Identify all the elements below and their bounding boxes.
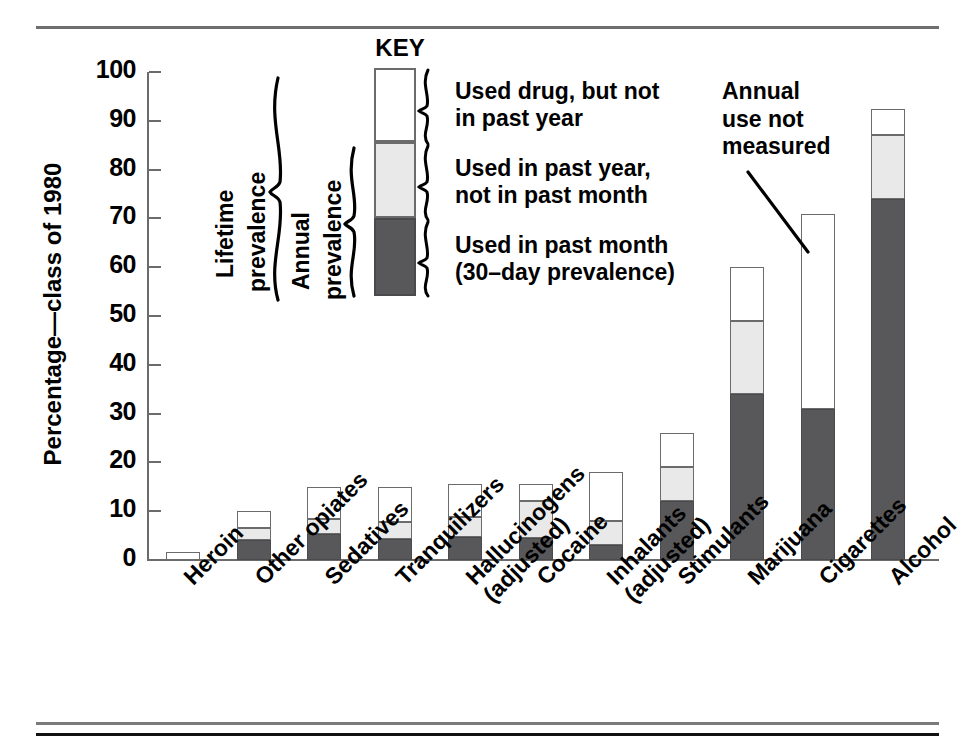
lifetime-prevalence-label: Lifetime	[212, 190, 239, 278]
bar-segment-past_year_not_month	[730, 321, 764, 394]
bar-segment-not_past_year	[237, 511, 271, 528]
y-axis-tick-label: 0	[78, 543, 136, 572]
key-label-past-month: Used in past month (30–day prevalence)	[455, 232, 675, 286]
y-axis-tick-label: 40	[78, 348, 136, 377]
key-label-line: Used in past month	[455, 232, 675, 259]
key-label-line: not in past month	[455, 182, 651, 209]
y-axis-label: Percentage—class of 1980	[39, 104, 67, 524]
y-axis-tick-label: 100	[78, 55, 136, 84]
y-axis-tick-label: 10	[78, 494, 136, 523]
bar-segment-not_past_year	[730, 267, 764, 321]
annotation-line: use not	[722, 106, 831, 134]
y-axis-tick-label: 50	[78, 299, 136, 328]
y-axis-tick-label: 20	[78, 445, 136, 474]
bar-stimulants	[660, 72, 694, 560]
key-swatch-not-past-year	[374, 68, 416, 142]
y-axis-tick-label: 70	[78, 201, 136, 230]
bar-alcohol	[871, 72, 905, 560]
annual-prevalence-label-2: prevalence	[320, 180, 347, 300]
chart-plot-area: 0102030405060708090100 Percentage—class …	[0, 0, 975, 756]
y-axis-tick-label: 60	[78, 250, 136, 279]
bar-segment-not_past_year	[801, 214, 835, 409]
bar-segment-not_past_year	[871, 109, 905, 136]
key-label-line: Used drug, but not	[455, 78, 659, 105]
bar-heroin	[166, 72, 200, 560]
key-label-not-past-year: Used drug, but not in past year	[455, 78, 659, 132]
key-title: KEY	[370, 34, 430, 62]
y-axis-tick-label: 30	[78, 397, 136, 426]
key-label-past-year: Used in past year, not in past month	[455, 155, 651, 209]
bar-segment-past_year_not_month	[871, 135, 905, 198]
annotation-annual-use-not-measured: Annual use not measured	[722, 78, 831, 161]
bar-other-opiates	[237, 72, 271, 560]
y-axis-tick-label: 90	[78, 104, 136, 133]
lifetime-prevalence-label-2: prevalence	[244, 172, 271, 292]
key-swatch-bar	[374, 68, 416, 296]
annual-prevalence-label: Annual	[288, 212, 315, 290]
key-swatch-past-month	[374, 218, 416, 296]
annotation-line: Annual	[722, 78, 831, 106]
y-axis-tick-label: 80	[78, 153, 136, 182]
annotation-line: measured	[722, 133, 831, 161]
bar-segment-not_past_year	[660, 433, 694, 467]
key-swatch-past-year	[374, 142, 416, 218]
key-label-line: in past year	[455, 105, 659, 132]
key-label-line: Used in past year,	[455, 155, 651, 182]
key-label-line: (30–day prevalence)	[455, 259, 675, 286]
